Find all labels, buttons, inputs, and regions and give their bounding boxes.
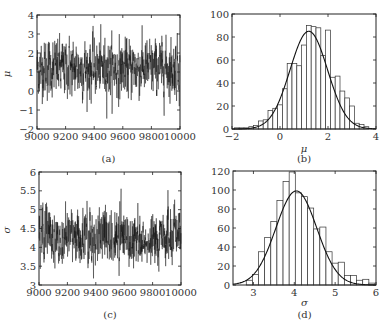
x-tick-label: 9800 xyxy=(139,131,164,142)
y-tick-label: 5.5 xyxy=(20,185,36,196)
histogram-bar xyxy=(320,227,326,285)
panel-caption: (d) xyxy=(297,309,311,320)
y-tick-label: −2 xyxy=(19,124,34,135)
x-axis-label: σ xyxy=(301,297,309,308)
y-tick-label: 6 xyxy=(30,167,36,178)
histogram-bar xyxy=(306,26,311,130)
histogram-bar xyxy=(289,172,295,285)
x-tick-label: 2 xyxy=(325,131,331,142)
histogram-bar xyxy=(277,200,283,285)
trace-line xyxy=(37,24,180,118)
y-tick-label: 60 xyxy=(217,223,230,234)
y-axis-label: σ xyxy=(1,225,12,233)
histogram-bar xyxy=(246,280,252,285)
y-tick-label: 4 xyxy=(30,242,36,253)
x-tick-label: 5 xyxy=(332,287,338,298)
histogram-bar xyxy=(271,221,277,285)
y-tick-label: 3 xyxy=(30,280,36,291)
y-tick-label: 40 xyxy=(216,78,229,89)
x-tick-label: 9600 xyxy=(111,287,136,298)
panel-caption: (c) xyxy=(103,309,117,320)
y-tick-label: 5 xyxy=(30,204,36,215)
x-tick-label: 4 xyxy=(373,131,379,142)
y-tick-label: 2 xyxy=(28,48,34,59)
histogram-bar xyxy=(287,63,292,129)
x-tick-label: 9800 xyxy=(140,287,165,298)
histogram-bar xyxy=(301,197,307,285)
y-tick-label: 80 xyxy=(217,204,230,215)
histogram-bar xyxy=(292,63,297,129)
histogram-bar xyxy=(338,262,344,285)
y-tick-label: 3.5 xyxy=(20,261,36,272)
panel-caption: (b) xyxy=(297,153,311,164)
y-tick-label: 20 xyxy=(216,101,229,112)
histogram-bar xyxy=(308,208,314,285)
histogram-bar xyxy=(282,89,287,129)
histogram-bar xyxy=(321,55,326,129)
histogram-bar xyxy=(326,30,331,129)
y-tick-label: 40 xyxy=(217,242,230,253)
panel-b: −2024020406080100μ(b) xyxy=(210,9,379,165)
histogram-bar xyxy=(350,106,355,129)
y-axis-label: μ xyxy=(1,71,12,78)
x-tick-label: 4 xyxy=(291,287,297,298)
histogram-bar xyxy=(345,98,350,129)
y-tick-label: 0 xyxy=(224,280,230,291)
y-tick-label: 80 xyxy=(216,32,229,43)
x-tick-label: 9200 xyxy=(53,131,78,142)
y-tick-label: −1 xyxy=(19,105,34,116)
histogram-bar xyxy=(302,45,307,129)
y-tick-label: 100 xyxy=(211,185,230,196)
y-tick-label: 0 xyxy=(223,124,229,135)
x-tick-label: 0 xyxy=(277,131,283,142)
figure: 9000920094009600980010000−2−101234μ(a)−2… xyxy=(0,0,380,332)
histogram-bar xyxy=(314,229,320,285)
y-tick-label: 120 xyxy=(211,166,230,177)
panel-caption: (a) xyxy=(102,153,116,164)
trace-line xyxy=(39,189,181,279)
y-tick-label: 20 xyxy=(217,261,230,272)
panel-c: 900092009400960098001000033.544.555.56σ(… xyxy=(1,167,197,321)
histogram-bar xyxy=(297,66,302,129)
y-tick-label: 4.5 xyxy=(20,223,36,234)
y-tick-label: 60 xyxy=(216,55,229,66)
x-tick-label: 9200 xyxy=(55,287,80,298)
panel-d: 3456020406080100120σ(d) xyxy=(211,166,379,321)
y-tick-label: 0 xyxy=(28,86,34,97)
histogram-bar xyxy=(326,252,332,285)
x-tick-label: 10000 xyxy=(165,287,197,298)
y-tick-label: 1 xyxy=(28,67,34,78)
histogram-bar xyxy=(259,252,265,285)
histogram-bar xyxy=(278,105,283,129)
x-tick-label: 9400 xyxy=(81,131,106,142)
y-tick-label: 3 xyxy=(28,29,34,40)
panel-a: 9000920094009600980010000−2−101234μ(a) xyxy=(1,10,196,165)
histogram-bar xyxy=(311,27,316,129)
y-tick-label: 100 xyxy=(210,9,229,20)
histogram-bar xyxy=(295,193,301,285)
x-tick-label: 6 xyxy=(373,287,379,298)
y-tick-label: 4 xyxy=(28,10,34,21)
x-tick-label: 3 xyxy=(250,287,256,298)
x-tick-label: 10000 xyxy=(164,131,196,142)
x-tick-label: 9600 xyxy=(110,131,135,142)
x-tick-label: 9400 xyxy=(83,287,108,298)
